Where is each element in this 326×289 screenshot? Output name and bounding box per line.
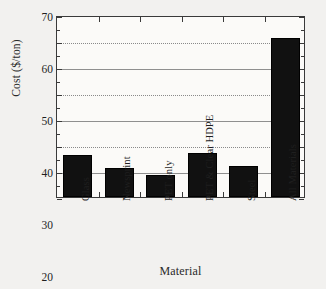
y-axis-tick-label: 20: [42, 272, 54, 284]
y-axis-tick-label: 30: [42, 220, 54, 232]
y-axis-tick-label: 60: [42, 64, 54, 76]
x-axis-title: Material: [56, 264, 305, 279]
plot-area: 010203040506070: [56, 16, 305, 198]
x-axis-category-label: PET & Clear HDPE: [205, 115, 216, 201]
y-axis-tick-label: 70: [42, 12, 54, 24]
y-axis-tick-label: 50: [42, 116, 54, 128]
x-axis-category-label: All Materials: [288, 144, 299, 201]
y-axis-tick: 0: [57, 199, 62, 200]
x-axis-category-label: PET only: [164, 160, 175, 201]
bar-chart-figure: Cost ($/ton) 010203040506070 GlassNewspr…: [0, 0, 326, 289]
y-axis-tick-label: 40: [42, 168, 54, 180]
bars-group: [57, 17, 304, 197]
x-axis-category-label: Glass: [81, 177, 92, 201]
x-axis-category-label: Steel: [247, 180, 258, 202]
y-axis-title: Cost ($/ton): [10, 13, 22, 123]
y-axis-tick-right: [299, 199, 304, 200]
x-axis-category-label: Newsprint: [122, 156, 133, 201]
